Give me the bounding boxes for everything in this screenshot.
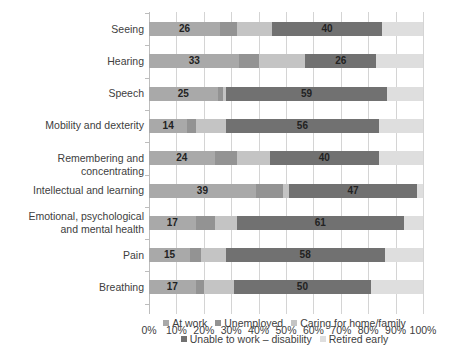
bar-segment: 59 <box>226 87 388 101</box>
bar-segment: 39 <box>149 184 256 198</box>
bar-row: 1761 <box>149 216 423 230</box>
y-tick <box>145 175 149 176</box>
data-label: 58 <box>226 248 385 262</box>
bar-segment: 58 <box>226 248 385 262</box>
legend-item: Retired early <box>320 333 389 345</box>
bar-segment <box>237 22 273 36</box>
category-label: Hearing <box>107 55 144 68</box>
bar-segment <box>204 280 234 294</box>
data-label: 33 <box>149 54 239 68</box>
bar-segment: 56 <box>226 119 379 133</box>
category-label: Speech <box>108 87 144 100</box>
y-tick <box>145 78 149 79</box>
y-tick <box>145 207 149 208</box>
legend-swatch-icon <box>181 336 187 342</box>
bar-segment: 33 <box>149 54 239 68</box>
bar-segment: 24 <box>149 151 215 165</box>
bar-row: 3947 <box>149 184 423 198</box>
bar-row: 3326 <box>149 54 423 68</box>
legend-label: Unable to work – disability <box>190 333 312 345</box>
legend-swatch-icon <box>291 320 297 326</box>
bar-segment <box>215 151 237 165</box>
bar-segment <box>417 184 422 198</box>
y-tick <box>145 142 149 143</box>
data-label: 47 <box>289 184 418 198</box>
bar-segment <box>371 280 423 294</box>
y-tick <box>145 239 149 240</box>
category-label: Intellectual and learning <box>33 184 144 197</box>
data-label: 14 <box>149 119 187 133</box>
category-label: Pain <box>123 249 144 262</box>
bar-segment <box>387 87 423 101</box>
stacked-bar-chart: SeeingHearingSpeechMobility and dexterit… <box>0 0 449 353</box>
bar-segment: 40 <box>270 151 380 165</box>
data-label: 40 <box>272 22 382 36</box>
bar-segment <box>376 54 423 68</box>
data-label: 17 <box>149 216 196 230</box>
bar-segment <box>196 216 215 230</box>
y-tick <box>145 13 149 14</box>
legend-label: Unemployed <box>224 317 283 329</box>
legend-row: At workUnemployedCaring for home/family <box>60 317 449 329</box>
data-label: 26 <box>149 22 220 36</box>
bar-segment <box>187 119 195 133</box>
bar-segment: 17 <box>149 280 196 294</box>
bar-segment <box>239 54 258 68</box>
category-label: Remembering and concentrating <box>0 152 144 178</box>
bar-segment <box>196 119 226 133</box>
bar-segment <box>190 248 201 262</box>
category-label: Emotional, psychological and mental heal… <box>28 210 144 236</box>
data-label: 24 <box>149 151 215 165</box>
bar-row: 2559 <box>149 87 423 101</box>
y-tick <box>145 45 149 46</box>
bar-segment <box>215 216 237 230</box>
legend-label: At work <box>172 317 207 329</box>
bar-segment: 50 <box>234 280 371 294</box>
bar-row: 2440 <box>149 151 423 165</box>
legend-label: Caring for home/family <box>300 317 406 329</box>
bar-segment <box>382 22 423 36</box>
bar-segment: 17 <box>149 216 196 230</box>
bar-segment <box>385 248 423 262</box>
y-tick <box>145 304 149 305</box>
data-label: 39 <box>149 184 256 198</box>
bar-segment <box>201 248 226 262</box>
bar-segment <box>237 151 270 165</box>
bar-segment: 26 <box>149 22 220 36</box>
legend-label: Retired early <box>329 333 389 345</box>
bar-row: 1456 <box>149 119 423 133</box>
bar-segment: 25 <box>149 87 218 101</box>
gridline <box>423 12 424 314</box>
bar-segment: 15 <box>149 248 190 262</box>
legend-item: At work <box>163 317 207 329</box>
bar-segment <box>256 184 283 198</box>
legend-swatch-icon <box>163 320 169 326</box>
bar-segment: 14 <box>149 119 187 133</box>
bar-segment: 26 <box>305 54 376 68</box>
data-label: 15 <box>149 248 190 262</box>
data-label: 61 <box>237 216 404 230</box>
legend-swatch-icon <box>320 336 326 342</box>
category-label: Seeing <box>111 23 144 36</box>
legend-item: Unemployed <box>215 317 283 329</box>
data-label: 59 <box>226 87 388 101</box>
data-label: 17 <box>149 280 196 294</box>
bar-row: 1750 <box>149 280 423 294</box>
bar-segment <box>220 22 236 36</box>
category-label: Breathing <box>99 281 144 294</box>
legend-item: Caring for home/family <box>291 317 406 329</box>
bar-row: 1558 <box>149 248 423 262</box>
legend-swatch-icon <box>215 320 221 326</box>
bar-segment: 61 <box>237 216 404 230</box>
data-label: 26 <box>305 54 376 68</box>
data-label: 56 <box>226 119 379 133</box>
bar-row: 2640 <box>149 22 423 36</box>
y-tick <box>145 271 149 272</box>
legend-row: Unable to work – disabilityRetired early <box>60 333 449 345</box>
bar-segment <box>379 119 423 133</box>
bar-segment <box>196 280 204 294</box>
data-label: 40 <box>270 151 380 165</box>
bar-segment <box>404 216 423 230</box>
y-tick <box>145 110 149 111</box>
bar-segment: 47 <box>289 184 418 198</box>
